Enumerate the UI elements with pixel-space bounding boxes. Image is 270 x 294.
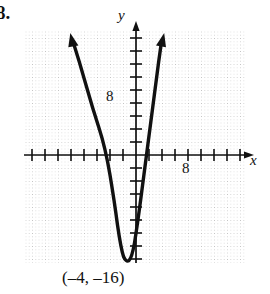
y-axis-tick-label-8: 8 xyxy=(106,88,114,105)
grid-dots xyxy=(24,30,245,263)
coordinate-plane xyxy=(0,0,270,294)
y-axis-label: y xyxy=(118,7,125,24)
x-axis-label: x xyxy=(250,152,257,169)
problem-number: 8. xyxy=(0,2,10,24)
vertex-coordinate-label: (–4, –16) xyxy=(62,268,124,288)
x-axis-tick-label-8: 8 xyxy=(182,160,190,177)
parabola-figure: 8. xyxy=(0,0,270,294)
